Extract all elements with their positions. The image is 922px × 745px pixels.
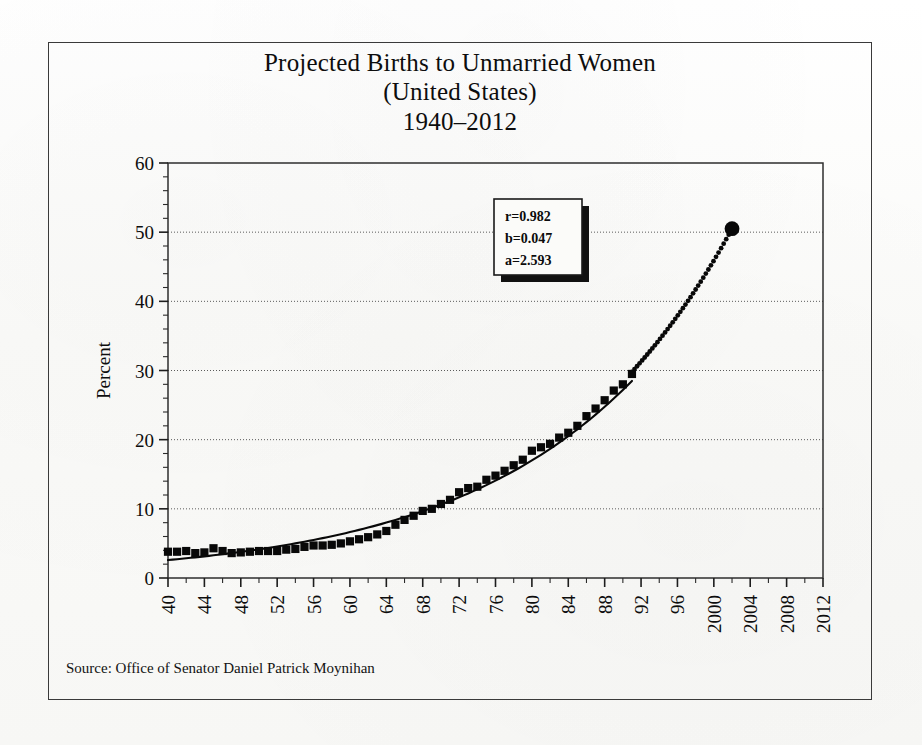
data-point-marker: [173, 548, 181, 556]
data-point-marker: [373, 530, 381, 538]
x-tick-label-52: 52: [267, 595, 288, 614]
x-tick-label-84: 84: [558, 595, 579, 615]
data-point-marker: [200, 548, 208, 556]
data-point-marker: [555, 433, 563, 441]
data-point-marker: [573, 422, 581, 430]
data-point-marker: [264, 547, 272, 555]
data-point-marker: [228, 549, 236, 557]
data-point-marker: [510, 461, 518, 469]
x-tick-label-44: 44: [194, 595, 215, 615]
x-tick-label-2004: 2004: [740, 595, 761, 634]
data-point-marker: [610, 386, 618, 394]
data-point-marker: [482, 476, 490, 484]
x-tick-label-2012: 2012: [813, 595, 834, 633]
data-point-marker: [619, 380, 627, 388]
x-tick-label-92: 92: [631, 595, 652, 614]
data-point-marker: [319, 541, 327, 549]
y-tick-label-40: 40: [135, 291, 154, 312]
y-tick-label-10: 10: [135, 499, 154, 520]
data-point-marker: [473, 483, 481, 491]
data-point-marker: [537, 443, 545, 451]
x-tick-label-40: 40: [158, 595, 179, 614]
y-axis-title-text: Percent: [93, 341, 114, 399]
data-point-marker: [164, 548, 172, 556]
data-point-marker: [273, 547, 281, 555]
data-point-marker: [519, 456, 527, 464]
data-point-marker: [428, 505, 436, 513]
data-point-marker: [528, 447, 536, 455]
data-point-marker: [582, 412, 590, 420]
data-point-marker: [328, 541, 336, 549]
figure-page: Projected Births to Unmarried Women (Uni…: [0, 0, 922, 745]
data-point-marker: [446, 496, 454, 504]
x-tick-label-48: 48: [231, 595, 252, 614]
data-point-marker: [300, 543, 308, 551]
projected-endpoint-marker: [725, 221, 740, 236]
data-point-marker: [255, 547, 263, 555]
x-tick-label-96: 96: [667, 595, 688, 614]
data-point-marker: [437, 500, 445, 508]
chart-canvas: 0102030405060 40444852566064687276808488…: [0, 0, 922, 745]
data-point-marker: [410, 512, 418, 520]
data-point-marker: [309, 541, 317, 549]
intercept-stat: a=2.593: [505, 253, 551, 268]
x-tick-label-72: 72: [449, 595, 470, 614]
data-point-marker: [346, 537, 354, 545]
x-tick-label-76: 76: [486, 595, 507, 614]
data-point-marker: [246, 548, 254, 556]
data-point-marker: [591, 404, 599, 412]
data-point-marker: [355, 535, 363, 543]
data-point-marker: [337, 539, 345, 547]
data-point-marker: [564, 429, 572, 437]
correlation-stat: r=0.982: [505, 209, 551, 224]
observed-markers: [164, 370, 636, 557]
data-point-marker: [364, 533, 372, 541]
y-axis-title: Percent: [93, 341, 114, 399]
data-point-marker: [501, 467, 509, 475]
data-point-marker: [391, 521, 399, 529]
data-point-marker: [464, 484, 472, 492]
data-point-marker: [291, 545, 299, 553]
source-note: Source: Office of Senator Daniel Patrick…: [66, 660, 375, 677]
data-point-marker: [209, 544, 217, 552]
x-tick-label-64: 64: [376, 595, 397, 615]
y-tick-label-50: 50: [135, 222, 154, 243]
data-point-marker: [282, 546, 290, 554]
data-point-marker: [601, 396, 609, 404]
y-tick-label-30: 30: [135, 361, 154, 382]
data-point-marker: [455, 488, 463, 496]
data-point-marker: [218, 547, 226, 555]
data-point-marker: [546, 440, 554, 448]
y-axis-ticks: 0102030405060: [135, 153, 168, 589]
x-tick-label-68: 68: [413, 595, 434, 614]
data-point-marker: [400, 516, 408, 524]
data-point-marker: [191, 549, 199, 557]
data-point-marker: [382, 527, 390, 535]
data-point-marker: [237, 548, 245, 556]
x-tick-label-2000: 2000: [704, 595, 725, 633]
data-point-marker: [419, 507, 427, 515]
x-tick-label-60: 60: [340, 595, 361, 614]
y-tick-label-60: 60: [135, 153, 154, 174]
data-point-marker: [182, 547, 190, 555]
x-axis-ticks: 4044485256606468727680848892962000200420…: [158, 578, 834, 633]
y-tick-label-0: 0: [145, 568, 155, 589]
x-tick-label-88: 88: [595, 595, 616, 614]
x-tick-label-80: 80: [522, 595, 543, 614]
x-tick-label-2008: 2008: [777, 595, 798, 633]
y-tick-label-20: 20: [135, 430, 154, 451]
trend-fit-line: [168, 381, 632, 560]
statistics-callout: r=0.982b=0.047a=2.593: [494, 199, 589, 282]
data-point-marker: [491, 472, 499, 480]
x-tick-label-56: 56: [304, 595, 325, 614]
slope-stat: b=0.047: [505, 231, 552, 246]
data-series: [164, 221, 740, 560]
